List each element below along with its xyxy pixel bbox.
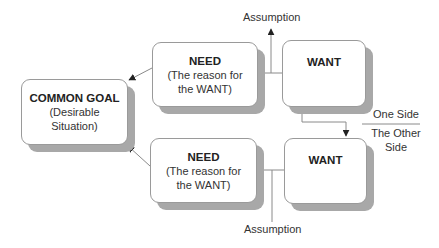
other-side-label: The Other Side bbox=[368, 126, 424, 154]
need-bottom-line2: the WANT) bbox=[177, 178, 231, 192]
want-top-box: WANT bbox=[282, 40, 366, 107]
need-bottom-line1: (The reason for bbox=[166, 164, 241, 178]
common-goal-title: COMMON GOAL bbox=[29, 91, 119, 105]
need-bottom-box: NEED (The reason for the WANT) bbox=[150, 138, 257, 203]
assumption-top-label: Assumption bbox=[243, 11, 300, 23]
need-top-to-goal-arrow bbox=[129, 68, 152, 80]
assumption-bottom-label: Assumption bbox=[244, 223, 301, 235]
common-goal-box: COMMON GOAL (Desirable Situation) bbox=[21, 79, 128, 145]
want-top-title: WANT bbox=[307, 55, 341, 69]
other-side-line1: The Other bbox=[368, 126, 424, 140]
other-side-line2: Side bbox=[368, 140, 424, 154]
need-top-title: NEED bbox=[189, 54, 221, 68]
conflict-arrow bbox=[302, 108, 346, 136]
need-bottom-title: NEED bbox=[188, 150, 220, 164]
want-bottom-title: WANT bbox=[309, 153, 343, 167]
want-bottom-box: WANT bbox=[284, 138, 367, 204]
conflict-diagram: COMMON GOAL (Desirable Situation) NEED (… bbox=[0, 0, 439, 248]
need-top-line2: the WANT) bbox=[178, 82, 232, 96]
need-bottom-to-goal-arrow bbox=[128, 146, 150, 166]
common-goal-line2: Situation) bbox=[51, 119, 97, 133]
need-top-line1: (The reason for bbox=[167, 68, 242, 82]
need-top-box: NEED (The reason for the WANT) bbox=[152, 42, 258, 107]
one-side-label: One Side bbox=[373, 108, 419, 120]
common-goal-line1: (Desirable bbox=[49, 105, 99, 119]
